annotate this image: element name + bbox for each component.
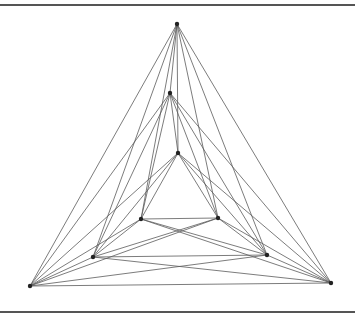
edge-A1-A3 <box>177 24 178 153</box>
edge-A2-A3 <box>170 93 178 153</box>
edge-B2-C2 <box>93 255 267 257</box>
edges-group <box>30 24 331 286</box>
edge-B1-B3 <box>30 219 141 286</box>
vertex-B1 <box>28 284 32 288</box>
edge-C1-A2 <box>170 93 331 283</box>
edge-A3-B3 <box>141 153 178 219</box>
vertex-B2 <box>91 255 95 259</box>
vertex-C1 <box>329 281 333 285</box>
edge-A2-B2 <box>93 93 170 257</box>
edge-C1-C2 <box>267 255 331 283</box>
vertex-C3 <box>216 216 220 220</box>
edge-C1-B2 <box>93 257 331 283</box>
vertex-C2 <box>265 253 269 257</box>
edge-A1-B1 <box>30 24 177 286</box>
vertex-B3 <box>139 217 143 221</box>
edge-C2-A3 <box>178 153 267 255</box>
edge-A1-C3 <box>177 24 218 218</box>
edge-A1-C1 <box>177 24 331 283</box>
vertex-A2 <box>168 91 172 95</box>
edge-A2-C2 <box>170 93 267 255</box>
edge-A1-B3 <box>141 24 177 219</box>
vertex-A3 <box>176 151 180 155</box>
edge-B1-A3 <box>30 153 178 286</box>
edge-A1-B2 <box>93 24 177 257</box>
edge-B3-C3 <box>141 218 218 219</box>
edge-C2-B3 <box>141 219 267 255</box>
edge-B2-A3 <box>93 153 178 257</box>
edge-B1-C1 <box>30 283 331 286</box>
vertex-A1 <box>175 22 179 26</box>
edge-B1-C3 <box>30 218 218 286</box>
graph-diagram <box>0 0 355 316</box>
edge-B1-C2 <box>30 255 267 286</box>
